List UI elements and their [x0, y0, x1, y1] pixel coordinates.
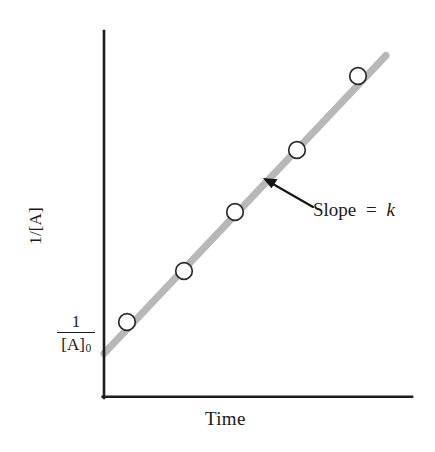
- y-axis-label: 1/[A]: [24, 186, 46, 266]
- intercept-denominator: [A]0: [50, 333, 102, 355]
- data-point-marker: [227, 204, 244, 221]
- slope-annotation-word: Slope: [313, 199, 356, 220]
- x-axis-label: Time: [205, 409, 246, 428]
- equals-sign: =: [361, 199, 382, 220]
- intercept-denominator-subscript: 0: [85, 342, 91, 354]
- data-point-marker: [176, 263, 193, 280]
- kinetics-figure: 1/[A] Time 1 [A]0 Slope = k: [0, 0, 435, 452]
- intercept-numerator: 1: [50, 313, 102, 332]
- slope-annotation-label: Slope = k: [313, 200, 395, 219]
- data-point-marker: [119, 314, 136, 331]
- y-intercept-label: 1 [A]0: [50, 313, 102, 354]
- data-point-marker: [289, 142, 306, 159]
- data-point-marker: [350, 68, 367, 85]
- slope-annotation-arrow: [263, 178, 313, 207]
- plot-canvas: [0, 0, 435, 452]
- rate-constant-symbol: k: [387, 199, 395, 220]
- y-axis-label-text: 1/[A]: [27, 207, 44, 244]
- intercept-denominator-base: [A]: [61, 335, 85, 354]
